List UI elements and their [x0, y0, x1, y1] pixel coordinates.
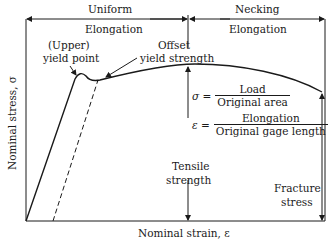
- tensile-label-1: Tensile: [172, 160, 209, 172]
- stress-equation: σ = Load Original area: [192, 83, 290, 108]
- region-necking-sublabel: Elongation: [229, 23, 287, 35]
- strain-numerator: Elongation: [240, 112, 302, 124]
- strain-denominator: Original gage length: [214, 124, 328, 137]
- fracture-label-2: stress: [281, 196, 313, 208]
- upper-yield-pointer: [70, 66, 76, 75]
- strain-symbol: ε =: [192, 119, 210, 131]
- offset-label-1: Offset: [158, 39, 190, 51]
- tensile-label-2: strength: [166, 174, 211, 186]
- fracture-label-1: Fracture: [274, 182, 321, 194]
- stress-denominator: Original area: [215, 95, 290, 108]
- stress-symbol: σ =: [192, 90, 211, 102]
- strain-equation: ε = Elongation Original gage length: [192, 112, 328, 137]
- region-uniform-label: Uniform: [88, 3, 132, 15]
- offset-line: [53, 80, 98, 221]
- region-necking-label: Necking: [235, 3, 280, 15]
- upper-yield-label-1: (Upper): [48, 39, 90, 51]
- stress-numerator: Load: [237, 83, 267, 95]
- region-uniform-sublabel: Elongation: [85, 23, 143, 35]
- y-axis-label: Nominal stress, σ: [6, 76, 18, 170]
- offset-label-2: yield strength: [140, 52, 214, 64]
- x-axis-label: Nominal strain, ε: [138, 227, 230, 239]
- upper-yield-label-2: yield point: [43, 52, 99, 64]
